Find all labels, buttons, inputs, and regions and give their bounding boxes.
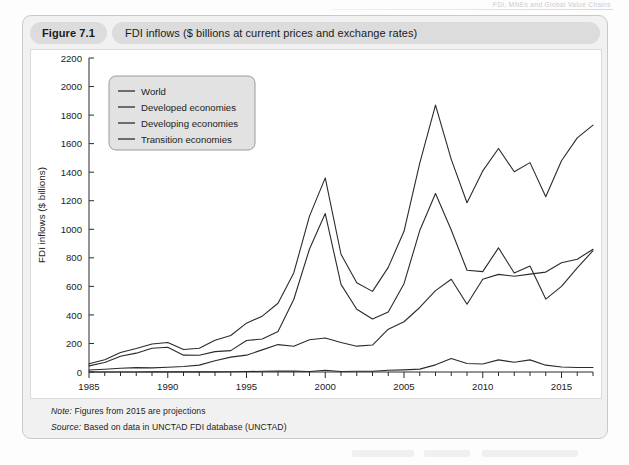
source-label: Source: bbox=[51, 422, 81, 432]
y-tick-label: 400 bbox=[66, 310, 82, 321]
figure-card: Figure 7.1 FDI inflows ($ billions at cu… bbox=[22, 15, 608, 439]
scan-artifact bbox=[352, 450, 414, 457]
x-tick-label: 1995 bbox=[236, 381, 257, 392]
note-line: Note: Figures from 2015 are projections bbox=[51, 406, 593, 416]
series-line-developing-economies bbox=[89, 249, 593, 370]
figure-title-label: FDI inflows ($ billions at current price… bbox=[112, 22, 600, 44]
scan-artifact bbox=[424, 450, 470, 457]
figure-number-label: Figure 7.1 bbox=[30, 22, 107, 44]
y-tick-label: 1800 bbox=[61, 110, 82, 121]
x-tick-label: 2005 bbox=[393, 381, 414, 392]
x-tick-label: 2015 bbox=[551, 381, 572, 392]
y-tick-label: 1000 bbox=[61, 224, 82, 235]
y-tick-label: 600 bbox=[66, 281, 82, 292]
y-tick-label: 1600 bbox=[61, 138, 82, 149]
series-line-transition-economies bbox=[89, 358, 593, 372]
running-head: FDI, MNEs and Global Value Chains bbox=[493, 1, 611, 8]
chart-plot-panel: 0200400600800100012001400160018002000220… bbox=[30, 49, 602, 399]
y-tick-label: 2000 bbox=[61, 81, 82, 92]
x-tick-label: 2010 bbox=[472, 381, 493, 392]
x-tick-label: 1985 bbox=[78, 381, 99, 392]
legend-label: Developed economies bbox=[141, 102, 236, 113]
header-rule bbox=[330, 9, 613, 10]
y-tick-label: 0 bbox=[77, 367, 82, 378]
legend-label: World bbox=[141, 86, 166, 97]
y-axis-title: FDI inflows ($ billions) bbox=[36, 167, 47, 263]
note-label: Note: bbox=[51, 406, 72, 416]
y-tick-label: 1200 bbox=[61, 195, 82, 206]
note-text: Figures from 2015 are projections bbox=[72, 406, 206, 416]
y-tick-label: 800 bbox=[66, 252, 82, 263]
scan-artifact bbox=[482, 450, 578, 457]
page-root: FDI, MNEs and Global Value Chains Figure… bbox=[0, 0, 629, 465]
figure-caption-bar: Figure 7.1 FDI inflows ($ billions at cu… bbox=[30, 22, 600, 44]
y-tick-label: 200 bbox=[66, 338, 82, 349]
y-tick-label: 1400 bbox=[61, 167, 82, 178]
series-line-developed-economies bbox=[89, 194, 593, 366]
source-text: Based on data in UNCTAD FDI database (UN… bbox=[81, 422, 286, 432]
legend-label: Developing economies bbox=[141, 118, 238, 129]
y-tick-label: 2200 bbox=[61, 53, 82, 64]
chart-legend: WorldDeveloped economiesDeveloping econo… bbox=[109, 76, 255, 150]
fdi-inflows-line-chart: 0200400600800100012001400160018002000220… bbox=[31, 50, 601, 398]
source-line: Source: Based on data in UNCTAD FDI data… bbox=[51, 422, 593, 432]
x-tick-label: 1990 bbox=[157, 381, 178, 392]
legend-label: Transition economies bbox=[141, 134, 232, 145]
x-tick-label: 2000 bbox=[315, 381, 336, 392]
figure-notes: Note: Figures from 2015 are projections … bbox=[51, 406, 593, 438]
